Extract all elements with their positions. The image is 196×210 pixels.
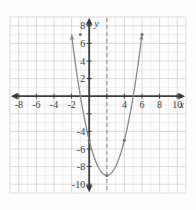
coordinate-plane: -8-6-4-246810 8642-4-6-8-10 x y xyxy=(0,0,196,210)
y-tick-label: -8 xyxy=(77,161,85,172)
x-tick-label: -2 xyxy=(67,99,75,110)
graph-figure: -8-6-4-246810 8642-4-6-8-10 x y xyxy=(0,0,196,210)
y-tick-label: 2 xyxy=(80,73,85,84)
y-tick-label: -6 xyxy=(77,144,85,155)
y-tick-label: 8 xyxy=(80,20,85,31)
y-axis-label: y xyxy=(93,18,99,29)
x-tick-label: 8 xyxy=(157,99,162,110)
x-tick-label: -8 xyxy=(15,99,23,110)
x-tick-label: -6 xyxy=(32,99,40,110)
x-axis-label: x xyxy=(179,99,185,110)
x-tick-label: -4 xyxy=(50,99,58,110)
y-tick-label: 4 xyxy=(80,56,85,67)
y-tick-label: 6 xyxy=(80,38,85,49)
y-tick-label: -4 xyxy=(77,126,85,137)
y-tick-label: -10 xyxy=(72,179,85,190)
x-tick-label: 6 xyxy=(140,99,145,110)
x-tick-label: 4 xyxy=(122,99,127,110)
